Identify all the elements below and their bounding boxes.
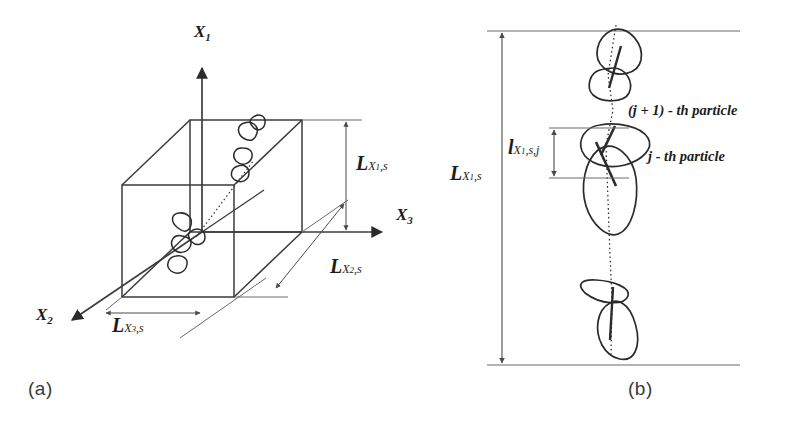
particle-cluster-upper xyxy=(231,115,265,182)
panel-caption-b: (b) xyxy=(628,378,653,400)
dimension-label-particle-length: lX1,s,j xyxy=(508,136,539,159)
dim-sub: X xyxy=(462,169,469,183)
axis-label-x3-base: X xyxy=(396,205,407,224)
coordinate-axes xyxy=(72,68,382,320)
dim-suffix: ,s xyxy=(354,262,362,276)
particle-shape xyxy=(172,213,191,231)
dim-base: L xyxy=(112,314,124,336)
dim-sub: X xyxy=(368,159,375,173)
particle-j-plus-1-label: (j + 1) - th particle xyxy=(628,102,737,119)
panel-caption-a: (a) xyxy=(28,378,53,400)
particle-major-axis-j-plus-1 xyxy=(601,126,615,155)
axis-x2-positive-extension xyxy=(202,190,264,232)
dim-base: L xyxy=(450,162,462,184)
dimension-label-length-x3-s: LX3,s xyxy=(112,314,144,337)
axis-label-x3: X3 xyxy=(396,205,413,226)
axis-label-x2-base: X xyxy=(36,305,47,324)
particle-j-label: j - th particle xyxy=(648,148,725,165)
axis-label-x1: X1 xyxy=(194,22,211,43)
dim-suffix: ,s,j xyxy=(525,143,539,157)
particle-group-middle xyxy=(581,124,650,235)
dim-sub: X xyxy=(514,143,521,157)
particle-shape-j-plus-1 xyxy=(581,124,650,167)
axis-label-x2: X2 xyxy=(36,305,53,326)
dim-base: L xyxy=(330,255,342,277)
dim-sub: X xyxy=(124,321,131,335)
particle-shape xyxy=(598,301,638,359)
particle-chain-axis-a xyxy=(196,160,254,237)
particle-group-bottom xyxy=(581,280,638,359)
axis-label-x3-sub: 3 xyxy=(407,214,413,226)
particle-shape xyxy=(168,256,187,273)
cuboid-edge-top-right xyxy=(234,120,302,185)
panel-b-graphics xyxy=(487,25,740,365)
axis-label-x2-sub: 2 xyxy=(47,314,53,326)
dimension-label-length-x1-s: LX1,s xyxy=(356,152,388,175)
axis-label-x1-sub: 1 xyxy=(205,31,211,43)
dimension-label-total-length-x1-s: LX1,s xyxy=(450,162,482,185)
particle-shape xyxy=(238,122,257,140)
cuboid-edge-bottom-right xyxy=(234,232,302,297)
dimension-length-x1-s xyxy=(302,120,362,232)
dimension-label-length-x2-s: LX2,s xyxy=(330,255,362,278)
particle-shape-j xyxy=(583,146,636,234)
particle-group-top xyxy=(589,29,641,101)
figure-canvas xyxy=(0,0,790,437)
dim-suffix: ,s xyxy=(136,321,144,335)
dimension-particle-length xyxy=(549,128,629,178)
dim-suffix: ,s xyxy=(474,169,482,183)
particle-major-axis xyxy=(610,287,613,340)
cuboid-edge-bottom-left xyxy=(122,232,190,297)
axis-x2-line xyxy=(72,232,202,320)
cuboid-edge-top-left xyxy=(122,120,190,185)
axis-label-x1-base: X xyxy=(194,22,205,41)
dim-suffix: ,s xyxy=(380,159,388,173)
particle-shape xyxy=(581,280,629,303)
particle-shape xyxy=(172,236,191,253)
dim-base: L xyxy=(356,152,368,174)
extension-line-lower-oblique xyxy=(180,278,266,338)
particle-major-axis xyxy=(609,46,621,88)
dimension-length-x3-s xyxy=(106,297,200,313)
extension-line-left xyxy=(106,297,122,310)
panel-a-graphics xyxy=(72,68,382,338)
dim-sub: X xyxy=(342,262,349,276)
particle-shape xyxy=(234,148,252,164)
sample-cuboid xyxy=(122,120,302,297)
